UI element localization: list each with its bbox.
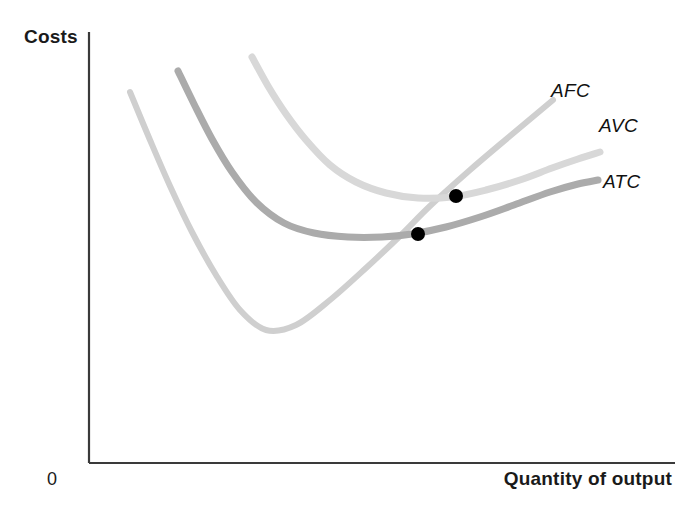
curve-label-avc: AVC — [599, 115, 638, 137]
cost-curves-figure: Costs Quantity of output 0 AFC AVC ATC — [0, 0, 675, 522]
curve-avc — [252, 57, 600, 198]
curve-atc — [178, 71, 598, 237]
curve-label-atc: ATC — [603, 171, 641, 193]
curve-label-afc: AFC — [551, 80, 590, 102]
intersection-dot — [411, 227, 425, 241]
y-axis-title: Costs — [24, 26, 78, 48]
plot-canvas — [0, 0, 675, 522]
origin-label: 0 — [47, 469, 57, 490]
intersection-dot — [449, 189, 463, 203]
x-axis-title: Quantity of output — [504, 468, 672, 490]
